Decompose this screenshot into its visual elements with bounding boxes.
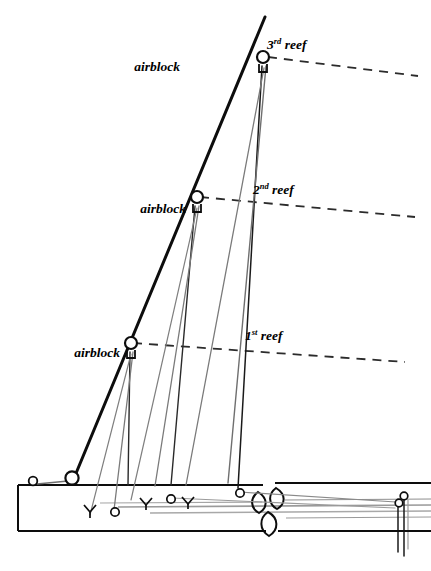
mast-luff-spar	[72, 17, 265, 483]
reefing-line-top-a	[238, 66, 262, 488]
reefing-line-mid-b	[155, 206, 199, 486]
second-reef-line	[200, 197, 415, 217]
boom-block-left-small-icon	[29, 477, 38, 486]
second-reef-word: reef	[269, 182, 296, 197]
reefing-line-top-b	[228, 66, 266, 483]
airblock-bottom-label: airblock	[74, 345, 120, 360]
first-reef-line	[133, 343, 405, 362]
airblock-bottom-sheave-icon	[125, 337, 137, 349]
third-reef-word: reef	[281, 37, 308, 52]
first-reef-word: reef	[257, 328, 284, 343]
reefing-diagram: airblock airblock airblock 3rd reef 2nd …	[0, 0, 431, 571]
boom-lead-line-left	[37, 481, 68, 484]
boom-end-block-1-icon	[395, 499, 403, 507]
boom-ring-2-icon	[167, 495, 175, 503]
first-reef-number: 1	[245, 328, 252, 343]
diagram-canvas: airblock airblock airblock 3rd reef 2nd …	[0, 0, 431, 571]
airblock-middle-label: airblock	[140, 201, 186, 216]
mast-spar-line	[72, 17, 265, 483]
airblock-top-sheave-icon	[257, 51, 269, 63]
second-reef-label: 2nd reef	[252, 181, 295, 197]
gooseneck-lower-lobe	[261, 512, 276, 536]
reefing-line-top-c	[186, 68, 264, 485]
first-reef-label: 1st reef	[245, 327, 284, 343]
third-reef-label: 3rd reef	[266, 36, 308, 52]
reefing-line-low-a	[128, 352, 130, 485]
boom-cleat-1-icon	[84, 505, 96, 518]
boom-ring-1-icon	[111, 508, 119, 516]
boom-internal-line-4	[286, 517, 431, 518]
boom-internal-line-5	[100, 502, 262, 503]
boom-internal-line-2	[150, 511, 431, 513]
third-reef-line	[268, 57, 418, 76]
boom-ring-3-icon	[236, 489, 244, 497]
boom-end-block-2-icon	[400, 492, 408, 500]
airblock-middle-sheave-icon	[191, 191, 203, 203]
airblock-top	[257, 51, 269, 72]
boom-block-mast-foot-icon	[65, 471, 78, 484]
reefing-line-low-c	[90, 354, 131, 515]
boom-cleat-2-icon	[140, 498, 152, 510]
reefing-line-mid-a	[171, 206, 195, 485]
airblock-top-label: airblock	[134, 59, 180, 74]
reefing-line-mid-c	[131, 208, 197, 500]
